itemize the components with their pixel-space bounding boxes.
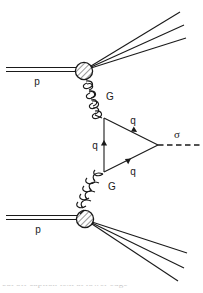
- proton-top-label: p: [34, 76, 40, 87]
- cropped-caption-strip: cut off caption text at lower edge: [0, 285, 203, 293]
- jet-top-3: [91, 38, 186, 68]
- jet-bottom-1: [92, 222, 187, 253]
- blob-top: [75, 62, 92, 79]
- gluon-top: G: [83, 81, 114, 119]
- proton-bottom-label: p: [35, 224, 41, 235]
- jets-bottom-group: [92, 222, 187, 281]
- quark-upper-arrow: [131, 127, 137, 133]
- gluon-bottom-label: G: [108, 181, 116, 192]
- quark-left-arrow: [101, 140, 107, 146]
- sigma-label: σ: [174, 128, 180, 140]
- jet-top-2: [91, 25, 184, 67]
- jet-bottom-2: [92, 223, 184, 268]
- jet-bottom-3: [92, 224, 178, 281]
- jets-top-group: [91, 12, 186, 68]
- quark-lower-label: q: [130, 166, 136, 177]
- quark-left-label: q: [92, 140, 98, 151]
- sigma-output: σ: [158, 128, 200, 145]
- quark-upper-label: q: [130, 115, 136, 126]
- jet-top-1: [91, 12, 180, 66]
- gluon-top-label: G: [106, 91, 114, 102]
- proton-top-group: p: [6, 68, 76, 88]
- gluon-bottom: G: [77, 170, 116, 214]
- proton-bottom-group: p: [6, 216, 77, 236]
- blob-bottom: [76, 210, 93, 227]
- quark-triangle: q q q: [92, 115, 158, 177]
- cropped-caption-text: cut off caption text at lower edge: [2, 285, 128, 288]
- feynman-diagram: p p G G q q q σ: [0, 0, 203, 293]
